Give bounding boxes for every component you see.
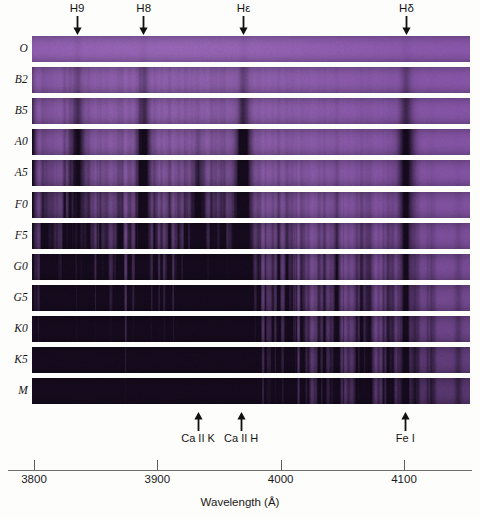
spectral-type-label-k5: K5 bbox=[0, 353, 28, 365]
annotation-label: Ca II H bbox=[206, 432, 276, 445]
top-annotation-h8: H8 bbox=[114, 2, 174, 35]
arrow-up-icon bbox=[401, 412, 410, 431]
spectral-type-label-a5: A5 bbox=[0, 166, 28, 178]
spectrum-strip-b5 bbox=[32, 98, 470, 124]
annotation-label: H8 bbox=[114, 2, 174, 15]
arrow-down-icon bbox=[73, 16, 82, 35]
spectral-type-label-b2: B2 bbox=[0, 73, 28, 85]
spectral-type-label-a0: A0 bbox=[0, 135, 28, 147]
spectrum-row: B5 bbox=[0, 98, 480, 124]
top-annotation-band: H9H8HεHδ bbox=[0, 0, 480, 36]
spectrum-row: G0 bbox=[0, 254, 480, 280]
spectrum-strip-f0 bbox=[32, 192, 470, 218]
spectrum-row: A5 bbox=[0, 160, 480, 186]
axis-title: Wavelength (Å) bbox=[0, 496, 480, 508]
axis-tick-label: 3800 bbox=[21, 473, 47, 485]
spectral-type-label-g0: G0 bbox=[0, 260, 28, 272]
spectrum-image bbox=[32, 160, 470, 186]
axis-tick bbox=[157, 460, 158, 470]
spectral-type-label-o: O bbox=[0, 42, 28, 54]
spectrum-image bbox=[32, 316, 470, 342]
arrow-down-icon bbox=[239, 16, 248, 35]
spectrum-row: B2 bbox=[0, 67, 480, 93]
spectrum-image bbox=[32, 378, 470, 404]
spectrum-image bbox=[32, 254, 470, 280]
spectrum-image bbox=[32, 285, 470, 311]
spectral-type-label-b5: B5 bbox=[0, 104, 28, 116]
spectrum-strip-g5 bbox=[32, 285, 470, 311]
spectrum-strip-a5 bbox=[32, 160, 470, 186]
spectra-panel: OB2B5A0A5F0F5G0G5K0K5M bbox=[0, 36, 480, 408]
arrow-up-icon bbox=[194, 412, 203, 431]
spectral-type-label-m: M bbox=[0, 384, 28, 396]
annotation-label: Fe I bbox=[370, 432, 440, 445]
axis-tick bbox=[404, 460, 405, 470]
spectrum-row: F0 bbox=[0, 192, 480, 218]
spectrum-row: A0 bbox=[0, 129, 480, 155]
spectrum-image bbox=[32, 67, 470, 93]
annotation-label: H9 bbox=[47, 2, 107, 15]
axis-tick-label: 3900 bbox=[145, 473, 171, 485]
spectrum-image bbox=[32, 223, 470, 249]
spectrum-strip-o bbox=[32, 36, 470, 62]
top-annotation-h: Hδ bbox=[376, 2, 436, 35]
spectrum-strip-g0 bbox=[32, 254, 470, 280]
spectrum-row: G5 bbox=[0, 285, 480, 311]
spectral-type-label-f5: F5 bbox=[0, 229, 28, 241]
annotation-label: Hδ bbox=[376, 2, 436, 15]
spectrum-image bbox=[32, 129, 470, 155]
spectrum-row: M bbox=[0, 378, 480, 404]
wavelength-axis: Wavelength (Å) 3800390040004100 bbox=[0, 452, 480, 519]
spectrum-strip-b2 bbox=[32, 67, 470, 93]
spectral-type-label-f0: F0 bbox=[0, 198, 28, 210]
spectral-type-label-k0: K0 bbox=[0, 322, 28, 334]
axis-line bbox=[8, 470, 472, 471]
spectrum-image bbox=[32, 347, 470, 373]
axis-tick bbox=[281, 460, 282, 470]
spectrum-row: K5 bbox=[0, 347, 480, 373]
arrow-down-icon bbox=[139, 16, 148, 35]
spectrum-row: O bbox=[0, 36, 480, 62]
spectrum-image bbox=[32, 192, 470, 218]
spectrum-row: K0 bbox=[0, 316, 480, 342]
spectral-type-label-g5: G5 bbox=[0, 291, 28, 303]
spectrum-image bbox=[32, 36, 470, 62]
arrow-up-icon bbox=[237, 412, 246, 431]
spectrum-strip-m bbox=[32, 378, 470, 404]
top-annotation-h9: H9 bbox=[47, 2, 107, 35]
spectrum-strip-f5 bbox=[32, 223, 470, 249]
spectral-classification-figure: H9H8HεHδ OB2B5A0A5F0F5G0G5K0K5M Ca II KC… bbox=[0, 0, 480, 519]
axis-tick-label: 4000 bbox=[268, 473, 294, 485]
spectrum-image bbox=[32, 98, 470, 124]
annotation-label: Hε bbox=[214, 2, 274, 15]
bottom-annotation-fei: Fe I bbox=[370, 412, 440, 445]
spectrum-row: F5 bbox=[0, 223, 480, 249]
bottom-annotation-caiih: Ca II H bbox=[206, 412, 276, 445]
axis-tick bbox=[34, 460, 35, 470]
spectrum-strip-k5 bbox=[32, 347, 470, 373]
spectrum-strip-k0 bbox=[32, 316, 470, 342]
spectrum-strip-a0 bbox=[32, 129, 470, 155]
top-annotation-h: Hε bbox=[214, 2, 274, 35]
arrow-down-icon bbox=[402, 16, 411, 35]
bottom-annotation-band: Ca II KCa II HFe I bbox=[0, 410, 480, 452]
axis-tick-label: 4100 bbox=[391, 473, 417, 485]
